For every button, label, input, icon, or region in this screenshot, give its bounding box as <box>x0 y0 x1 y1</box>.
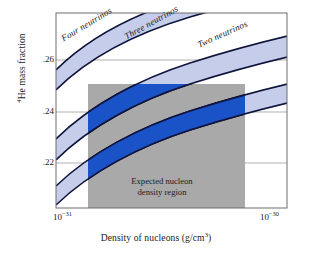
x-axis-title: Density of nucleons (g/cm3) <box>0 231 312 243</box>
y-tick-label-0: .26 <box>30 54 54 64</box>
x-tick-label-0-exponent: −31 <box>62 210 72 217</box>
x-tick-label-1: 10−30 <box>260 210 279 222</box>
y-tick-label-1: .24 <box>30 106 54 116</box>
x-axis-title-tail: ) <box>208 232 211 243</box>
region-caption-line-2: density region <box>96 187 228 198</box>
y-tick-label-2: .22 <box>30 157 54 167</box>
x-axis-title-base: Density of nucleons (g/cm <box>101 232 205 243</box>
x-tick-label-0-base: 10 <box>53 212 62 222</box>
x-tick-label-0: 10−31 <box>53 210 72 222</box>
y-axis-title-superscript: 4 <box>15 99 22 102</box>
expected-density-region-caption: Expected nucleon density region <box>96 176 228 198</box>
y-axis-title: 4He mass fraction <box>15 3 27 133</box>
region-caption-line-1: Expected nucleon <box>96 176 228 187</box>
x-tick-label-1-exponent: −30 <box>269 210 279 217</box>
y-axis-title-text: He mass fraction <box>17 33 27 99</box>
x-tick-label-1-base: 10 <box>260 212 269 222</box>
chart-figure: .26 .24 .22 10−31 10−30 4He mass fractio… <box>0 0 312 256</box>
